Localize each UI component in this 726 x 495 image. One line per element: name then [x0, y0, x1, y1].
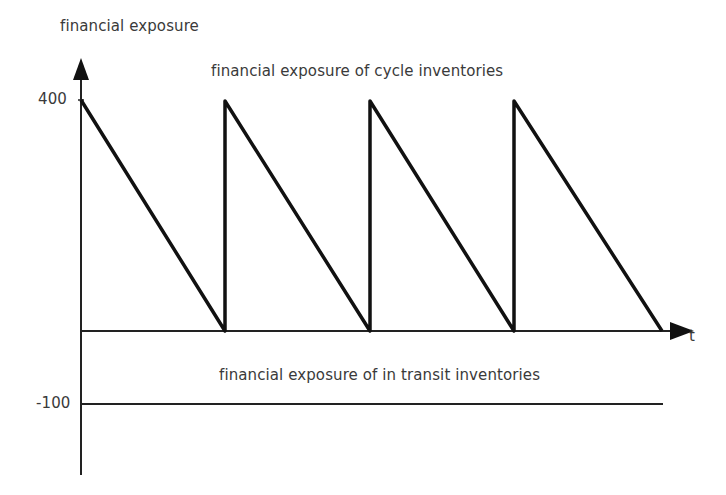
cycle-inventory-label: financial exposure of cycle inventories	[211, 62, 503, 80]
tick-label-400: 400	[38, 90, 67, 108]
x-axis-label: t	[689, 327, 695, 345]
y-axis-label: financial exposure	[60, 17, 199, 35]
transit-inventory-label: financial exposure of in transit invento…	[219, 366, 540, 384]
cycle-inventory-sawtooth	[81, 100, 662, 331]
diagram: financial exposure financial exposure of…	[0, 0, 726, 495]
tick-label-neg100: -100	[36, 394, 70, 412]
y-axis-arrow-icon	[73, 58, 89, 80]
